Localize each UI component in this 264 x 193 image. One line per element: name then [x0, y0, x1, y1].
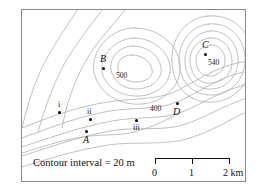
- scale-bar: 0 1 2 km: [155, 158, 230, 188]
- map-frame: 500 540 400 A B C D i ii iii Contour int…: [21, 9, 246, 182]
- contour-line: [93, 28, 180, 104]
- map-point-B[interactable]: [102, 67, 105, 70]
- scale-tick-label-1: 1: [189, 167, 194, 178]
- contour-paths: [22, 10, 245, 167]
- scale-tick-label-2: 2 km: [223, 167, 243, 178]
- contour-label-540: 540: [208, 59, 219, 67]
- map-point-iii[interactable]: [135, 119, 138, 122]
- contour-label-400: 400: [150, 105, 161, 113]
- contour-line: [22, 85, 245, 147]
- map-label-iii: iii: [133, 124, 140, 132]
- map-point-D[interactable]: [176, 102, 179, 105]
- map-label-C: C: [202, 40, 209, 50]
- contour-line: [111, 46, 161, 89]
- map-label-A: A: [83, 135, 89, 145]
- map-label-ii: ii: [87, 108, 91, 116]
- map-label-i: i: [58, 101, 60, 109]
- map-label-D: D: [173, 107, 180, 117]
- map-point-ii[interactable]: [89, 118, 92, 121]
- contour-lines-group: [22, 10, 245, 181]
- contour-map-figure: 500 540 400 A B C D i ii iii Contour int…: [0, 0, 264, 193]
- map-label-B: B: [100, 54, 106, 64]
- scale-tick-label-0: 0: [152, 167, 157, 178]
- map-point-C[interactable]: [204, 53, 207, 56]
- scale-tick-1: [192, 158, 193, 164]
- contour-line: [22, 10, 77, 128]
- map-point-A[interactable]: [85, 130, 88, 133]
- map-point-i[interactable]: [58, 111, 61, 114]
- contour-line: [102, 38, 171, 96]
- contour-interval-legend: Contour interval = 20 m: [33, 157, 135, 168]
- contour-line: [22, 116, 174, 153]
- scale-tick-0: [155, 158, 156, 164]
- contour-label-500: 500: [116, 72, 127, 80]
- contour-line: [38, 10, 102, 132]
- scale-tick-2: [229, 158, 230, 164]
